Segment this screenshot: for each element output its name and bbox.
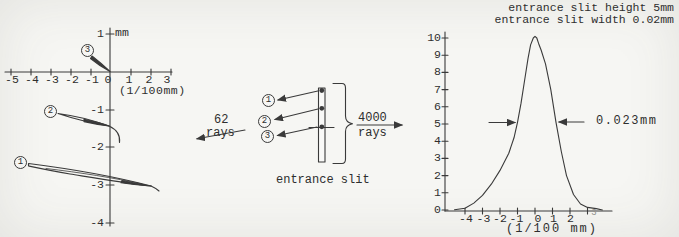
profile-y-tick-label-3: 3 (419, 153, 441, 165)
profile-y-tick-label-6: 6 (419, 101, 441, 113)
ray-arrow-3 (278, 127, 318, 136)
left-chart-x-tick-label-m3: -3 (45, 74, 59, 86)
ray-2-number-badge: 2 (258, 115, 271, 128)
spot-1-tail (151, 186, 159, 191)
slit-dot-3 (319, 124, 324, 129)
fwhm-width-annotation: 0.023mm (596, 115, 658, 127)
profile-title-line1: entrance slit height 5mm (508, 2, 674, 14)
left-chart-y-tick-label-m3: -3 (86, 179, 104, 191)
left-chart-x-tick-label-0: 0 (105, 74, 112, 86)
profile-y-tick-label-10: 10 (419, 32, 441, 44)
slit-dot-2 (319, 106, 324, 111)
spot-2-number: 2 (48, 107, 53, 116)
left-chart-y-tick-label-m2: -2 (86, 141, 104, 153)
entrance-slit-caption: entrance slit (276, 174, 370, 186)
profile-x-tick-label-3: 3 (591, 209, 596, 218)
rays-out-count: 4000 (358, 112, 387, 124)
left-chart-y-tick-label-m1: -1 (86, 104, 104, 116)
profile-x-tick-label-m2: -2 (493, 213, 507, 225)
ray-arrow-2 (275, 109, 320, 120)
left-chart-x-tick-label-m1: -1 (85, 74, 99, 86)
ray-2-number: 2 (262, 117, 267, 126)
profile-y-tick-label-5: 5 (419, 118, 441, 130)
ray-3-number: 3 (265, 132, 270, 141)
spot-1-number: 1 (18, 158, 23, 167)
profile-y-tick-label-4: 4 (419, 135, 441, 147)
left-chart-y-tick-label-m4: -4 (86, 217, 104, 229)
left-chart-y-tick-label-1: 1 (86, 28, 104, 40)
ray-1-number-badge: 1 (262, 94, 275, 107)
left-chart-x-tick-label-m4: -4 (25, 74, 39, 86)
profile-x-axis-label: (1/100 mm) (506, 223, 598, 235)
profile-y-tick-label-0: 0 (419, 204, 441, 216)
profile-curve (455, 36, 603, 210)
profile-y-tick-label-1: 1 (419, 187, 441, 199)
spot-2-number-badge: 2 (44, 105, 57, 118)
spot-3-blade (91, 56, 111, 72)
rays-in-count: 62 (214, 114, 228, 126)
spot-2-core (84, 119, 109, 126)
profile-title-line2: entrance slit width 0.02mm (495, 14, 674, 26)
left-chart-x-tick-label-m5: -5 (5, 74, 19, 86)
slit-brace (333, 84, 353, 164)
left-chart-x-tick-label-m2: -2 (65, 74, 79, 86)
profile-y-tick-label-2: 2 (419, 170, 441, 182)
spot-3-number-badge: 3 (81, 44, 94, 57)
left-chart-x-axis-label: (1/100mm) (119, 85, 186, 97)
ray-1-number: 1 (266, 96, 271, 105)
spot-2-tail (109, 126, 120, 143)
ray-arrow-1 (278, 91, 320, 101)
profile-y-tick-label-8: 8 (419, 67, 441, 79)
profile-y-tick-label-7: 7 (419, 84, 441, 96)
spot-1-core (121, 181, 151, 187)
spot-1-number-badge: 1 (14, 156, 27, 169)
figure-canvas: 1 mm -1 -2 -3 -4 -5 -4 -3 -2 -1 0 1 2 3 … (0, 0, 679, 237)
rays-in-word: rays (206, 127, 235, 139)
profile-y-tick-label-9: 9 (419, 49, 441, 61)
left-chart-y-unit-label: mm (115, 27, 129, 39)
spot-3-number: 3 (85, 46, 90, 55)
profile-x-tick-label-m3: -3 (477, 213, 491, 225)
ray-3-number-badge: 3 (261, 130, 274, 143)
rays-out-word: rays (358, 127, 387, 139)
slit-dot-1 (319, 88, 324, 93)
profile-x-tick-label-m4: -4 (459, 213, 473, 225)
